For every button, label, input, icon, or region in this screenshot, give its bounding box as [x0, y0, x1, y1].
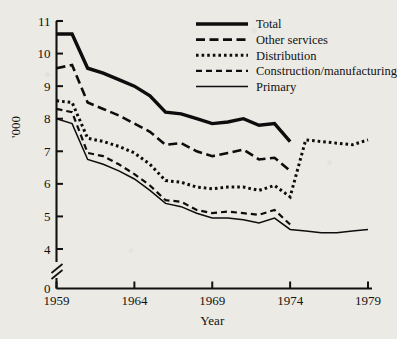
- y-tick-label: 11: [38, 14, 51, 29]
- y-tick-label: 8: [44, 111, 51, 126]
- legend-label-other-services: Other services: [256, 33, 328, 47]
- chart-figure: TotalOther servicesDistributionConstruct…: [0, 0, 397, 339]
- y-tick-label: 4: [44, 242, 51, 257]
- line-chart-svg: TotalOther servicesDistributionConstruct…: [0, 0, 397, 339]
- legend-label-total: Total: [256, 17, 282, 31]
- x-tick-label: 1959: [44, 293, 70, 308]
- x-axis-title: Year: [200, 313, 225, 328]
- series-line-primary: [57, 119, 369, 233]
- axis-labels: 4567891011019591964196919741979Year'000: [8, 14, 381, 328]
- series-line-distribution: [57, 101, 369, 197]
- y-tick-label: 7: [44, 144, 51, 159]
- x-tick-label: 1969: [199, 293, 225, 308]
- legend-label-distribution: Distribution: [256, 49, 317, 63]
- x-tick-label: 1964: [121, 293, 148, 308]
- y-tick-label: 10: [38, 46, 51, 61]
- x-tick-label: 1979: [355, 293, 381, 308]
- chart-legend: TotalOther servicesDistributionConstruct…: [196, 17, 397, 93]
- y-axis-title: '000: [8, 116, 23, 138]
- legend-label-primary: Primary: [256, 80, 297, 94]
- y-tick-label: 5: [44, 209, 51, 224]
- series-line-construction-manufacturing: [57, 109, 291, 225]
- y-tick-label: 9: [44, 79, 51, 94]
- legend-label-construction-manufacturing: Construction/manufacturing: [256, 64, 397, 78]
- y-tick-label: 6: [44, 176, 51, 191]
- x-tick-label: 1974: [277, 293, 304, 308]
